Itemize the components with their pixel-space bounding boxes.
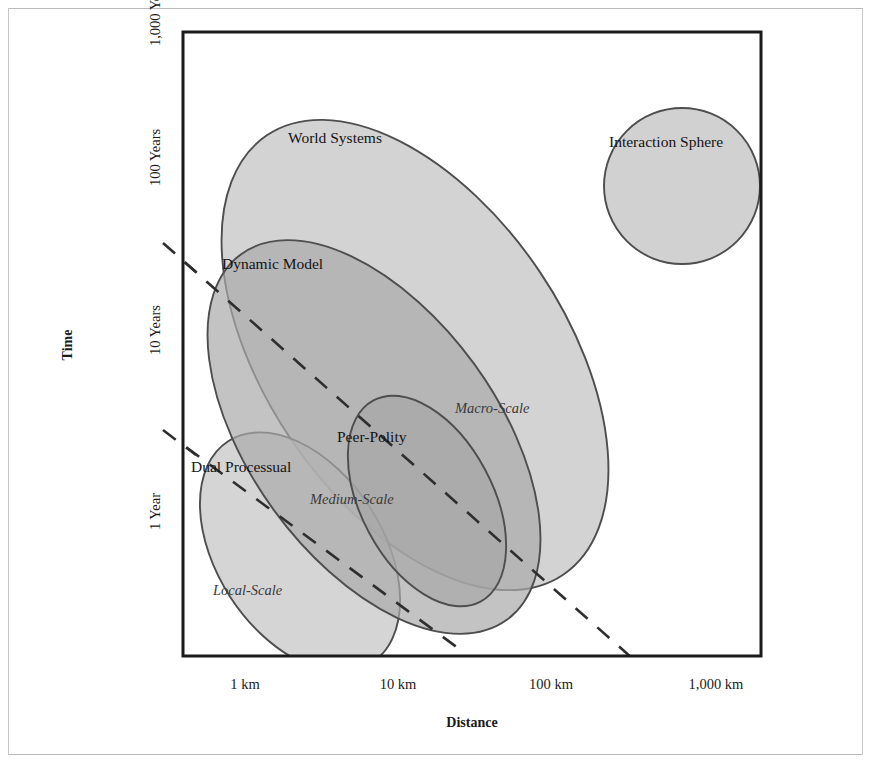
label-peer-polity: Peer-Polity — [337, 428, 407, 445]
divider-medium-local-stub — [163, 430, 196, 455]
y-tick-label-1000-years: 1,000 Years — [147, 0, 163, 46]
label-world-systems: World Systems — [288, 129, 382, 146]
label-local-scale: Local-Scale — [212, 582, 283, 598]
y-tick-label-10-years: 10 Years — [147, 305, 163, 355]
label-dynamic-model: Dynamic Model — [222, 255, 323, 272]
x-axis-title: Distance — [446, 715, 497, 730]
y-tick-label-100-years: 100 Years — [147, 128, 163, 186]
label-interaction-sphere: Interaction Sphere — [609, 133, 723, 150]
scale-diagram: World Systems Interaction Sphere Dynamic… — [0, 0, 871, 763]
figure-container: World Systems Interaction Sphere Dynamic… — [0, 0, 871, 763]
label-macro-scale: Macro-Scale — [454, 400, 530, 416]
x-tick-label-100-km: 100 km — [529, 676, 574, 692]
divider-macro-medium-stub — [163, 243, 196, 272]
region-interaction-sphere — [604, 108, 760, 264]
label-dual-processual: Dual Processual — [191, 458, 291, 475]
label-medium-scale: Medium-Scale — [309, 491, 394, 507]
x-tick-label-1000-km: 1,000 km — [689, 676, 745, 692]
y-tick-label-1-year: 1 Year — [147, 493, 163, 530]
x-tick-label-10-km: 10 km — [380, 676, 417, 692]
x-tick-label-1-km: 1 km — [230, 676, 260, 692]
y-axis-title: Time — [60, 330, 75, 361]
